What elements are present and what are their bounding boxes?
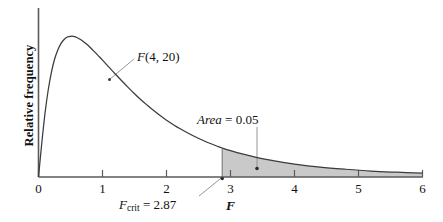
area-label-value: = 0.05	[222, 112, 259, 127]
distribution-label-params: (4, 20)	[145, 49, 180, 64]
area-label-word: Area	[197, 112, 222, 127]
x-tick-label-5: 5	[349, 182, 369, 195]
x-tick-label-2: 2	[157, 182, 177, 195]
fcrit-anchor-dot	[220, 177, 224, 181]
x-axis-title: F	[226, 199, 235, 213]
distribution-anchor-dot	[108, 78, 111, 81]
fcrit-label-value: = 2.87	[140, 197, 177, 212]
fcrit-label-sub: crit	[127, 203, 140, 213]
f-distribution-figure: Relative frequency 0 1 2 3 4 5 6 F F(4, …	[0, 0, 443, 222]
x-tick-label-4: 4	[285, 182, 305, 195]
distribution-label: F(4, 20)	[137, 50, 180, 63]
x-tick-label-3: 3	[221, 182, 241, 195]
fcrit-label: Fcrit = 2.87	[119, 198, 176, 214]
distribution-leader-line	[110, 59, 134, 79]
x-tick-label-0: 0	[29, 182, 49, 195]
area-anchor-dot	[255, 167, 259, 171]
area-label: Area = 0.05	[197, 113, 258, 126]
fcrit-label-var: F	[119, 197, 127, 212]
y-axis-title: Relative frequency	[22, 21, 37, 171]
fcrit-leader-line	[199, 179, 220, 196]
x-tick-label-1: 1	[93, 182, 113, 195]
x-tick-label-6: 6	[413, 182, 433, 195]
distribution-label-name: F	[137, 49, 145, 64]
